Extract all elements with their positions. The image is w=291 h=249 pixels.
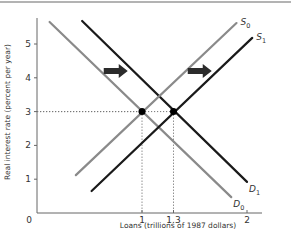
curve-label-s1: S1 [256, 32, 266, 45]
y-tick-label: 2 [25, 140, 31, 150]
y-tick-label: 3 [25, 107, 31, 117]
y-tick-label: 4 [25, 73, 31, 83]
y-tick-label: 5 [25, 39, 31, 49]
curve-s0 [76, 23, 237, 175]
initial-equilibrium-point [139, 108, 146, 115]
x-tick-label: 2 [244, 215, 250, 225]
x-tick-label: 0 [26, 215, 32, 225]
arrows-group [104, 64, 212, 78]
demand-shift-arrow [104, 64, 128, 78]
y-tick-label: 1 [25, 174, 31, 184]
y-axis-title: Real interest rate (percent per year) [3, 44, 12, 180]
curve-d1 [82, 21, 247, 182]
curve-label-d0: D0 [233, 199, 244, 212]
new-equilibrium-point [170, 108, 177, 115]
axes [37, 18, 262, 213]
chart: D0D1S0S1 011.32 12345 Loans (trillions o… [0, 0, 291, 249]
curve-label-s0: S0 [241, 17, 251, 30]
series-group: D0D1S0S1 [50, 17, 267, 212]
x-axis-title: Loans (trillions of 1987 dollars) [120, 221, 236, 230]
guide-lines [37, 112, 174, 213]
curve-label-d1: D1 [249, 184, 260, 197]
y-ticks: 12345 [25, 39, 37, 184]
